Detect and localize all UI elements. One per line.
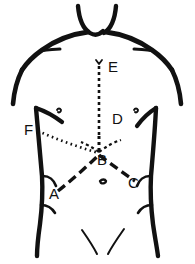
left-costal-margin (36, 108, 62, 122)
right-inguinal-crease (108, 229, 124, 254)
neck-left-curve (78, 6, 103, 35)
torso-diagram: E D B F A C (0, 0, 195, 264)
right-nipple-mark (134, 109, 138, 113)
label-B: B (97, 151, 107, 168)
neck-right-curve (104, 6, 116, 33)
left-inguinal-crease (82, 230, 97, 254)
umbilicus-mark (100, 180, 106, 184)
figure-container: E D B F A C (0, 0, 195, 264)
incision-chevron-left-A-B (58, 155, 99, 191)
left-shoulder-edge (22, 32, 88, 70)
right-armpit-fold (134, 49, 154, 51)
right-flank-edge (151, 108, 158, 256)
left-nipple-mark (57, 109, 61, 113)
left-armpit-fold (40, 49, 60, 51)
right-arm-outer-edge (172, 70, 181, 104)
left-arm-outer-edge (13, 70, 22, 104)
sternal-notch-mark (96, 60, 102, 64)
label-F: F (24, 121, 33, 138)
label-E: E (108, 58, 118, 75)
label-A: A (49, 185, 59, 202)
label-D: D (112, 110, 123, 127)
incision-lines (38, 66, 135, 191)
incision-oblique-F-B (38, 131, 99, 153)
label-C: C (128, 174, 139, 191)
right-hip-crease (137, 176, 150, 186)
